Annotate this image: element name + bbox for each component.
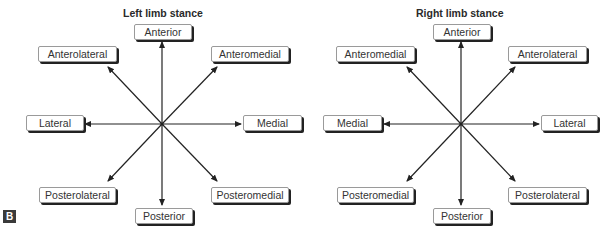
label-anteromedial: Anteromedial [211, 46, 289, 62]
label-posterior: Posterior [433, 208, 491, 224]
right-panel-title: Right limb stance [416, 7, 504, 19]
label-anterior: Anterior [134, 24, 192, 40]
arrow-anterolateral [108, 67, 162, 124]
label-lateral: Lateral [541, 115, 598, 131]
arrow-anteromedial [162, 67, 217, 124]
left-center-dot [160, 122, 163, 125]
arrow-posterolateral [461, 124, 515, 181]
arrow-anteromedial [407, 67, 461, 124]
arrow-posteromedial [407, 124, 461, 181]
label-posterior: Posterior [135, 208, 193, 224]
figure-label-badge: B [3, 210, 16, 223]
label-anterolateral: Anterolateral [38, 46, 117, 62]
label-posterolateral: Posterolateral [39, 187, 116, 203]
arrow-posteromedial [162, 124, 217, 181]
label-medial: Medial [243, 115, 302, 131]
arrow-anterolateral [461, 67, 515, 124]
label-medial: Medial [323, 115, 382, 131]
label-anteromedial: Anteromedial [336, 46, 415, 62]
right-center-dot [459, 122, 462, 125]
label-posteromedial: Posteromedial [337, 187, 414, 203]
label-anterior: Anterior [433, 24, 491, 40]
label-anterolateral: Anterolateral [508, 46, 587, 62]
label-posteromedial: Posteromedial [211, 187, 289, 203]
left-panel-title: Left limb stance [123, 7, 203, 19]
arrow-posterolateral [108, 124, 162, 181]
label-posterolateral: Posterolateral [508, 187, 587, 203]
label-lateral: Lateral [26, 115, 84, 131]
